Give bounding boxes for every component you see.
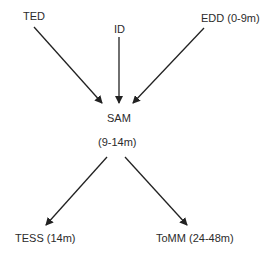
diagram-edges: [0, 0, 264, 256]
node-tomm: ToMM (24-48m): [156, 233, 234, 244]
diagram-canvas: TED ID EDD (0-9m) SAM (9-14m) TESS (14m)…: [0, 0, 264, 256]
node-sam-age-range: (9-14m): [98, 137, 137, 148]
arrow-edd-to-sam: [133, 28, 204, 103]
node-tess: TESS (14m): [15, 233, 76, 244]
arrow-sam-to-tomm: [125, 157, 187, 225]
node-edd: EDD (0-9m): [201, 13, 260, 24]
arrow-sam-to-tess: [46, 157, 107, 225]
node-ted: TED: [23, 11, 45, 22]
node-sam: SAM: [107, 113, 131, 124]
arrow-ted-to-sam: [34, 27, 102, 103]
node-id: ID: [114, 24, 125, 35]
